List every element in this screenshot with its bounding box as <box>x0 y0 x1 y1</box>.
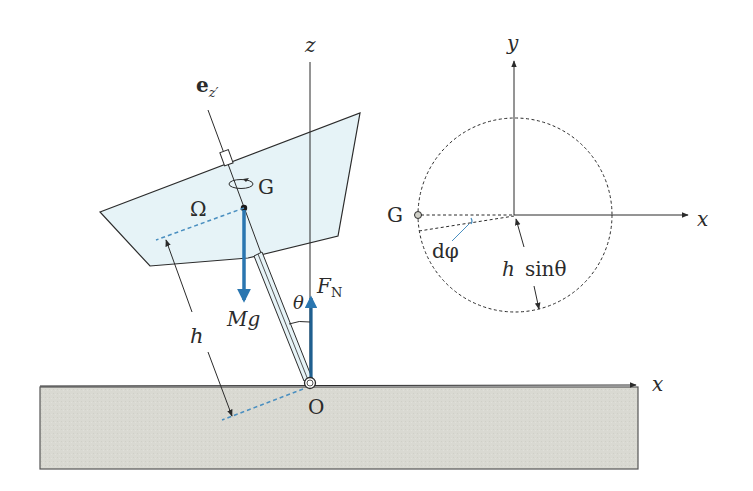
ez-prime-label: ez′ <box>196 73 219 100</box>
right-y-label: y <box>506 31 519 55</box>
O-label: O <box>308 395 324 419</box>
pivot-point <box>305 378 316 389</box>
z-axis-label: z <box>304 33 316 57</box>
omega-label: Ω <box>190 197 207 221</box>
Mg-label: Mg <box>226 307 260 331</box>
rotor-blade <box>100 113 360 266</box>
theta-angle-arc <box>289 321 310 324</box>
hub-cap <box>220 150 233 166</box>
rotor-stem <box>254 252 312 381</box>
dphi-arc <box>471 218 472 224</box>
ground-block <box>40 387 638 469</box>
right-G-point <box>415 212 422 219</box>
h-sin-theta-label: hsinθ <box>502 257 566 281</box>
radius-line-2 <box>419 216 514 231</box>
FN-label: FN <box>316 274 342 300</box>
diagram-canvas: x z ez′ G Ω h Mg FN θ <box>0 0 753 491</box>
h-label: h <box>190 324 204 348</box>
ground-x-label: x <box>652 372 663 396</box>
ground-x-axis <box>40 385 636 386</box>
radius-arrow-out <box>534 286 539 309</box>
right-G-label: G <box>387 203 403 227</box>
G-label: G <box>258 175 274 199</box>
right-x-label: x <box>697 207 708 231</box>
radius-arrow-in <box>516 219 524 247</box>
dphi-label: dφ <box>432 239 459 263</box>
theta-label: θ <box>293 292 304 313</box>
